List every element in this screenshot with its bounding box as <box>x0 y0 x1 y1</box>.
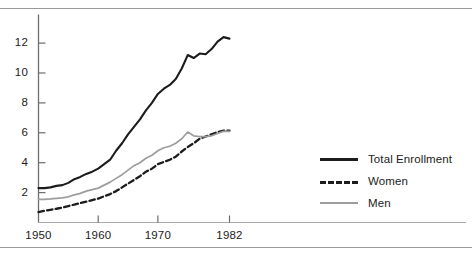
x-tick-label: 1982 <box>207 229 253 241</box>
legend-line-swatch-icon <box>320 202 358 204</box>
y-tick-label: 8 <box>2 96 28 108</box>
series-line-men <box>39 131 230 199</box>
legend-line-swatch-icon <box>320 158 358 161</box>
bottom-divider-rule <box>0 247 472 248</box>
axis-ticks <box>39 43 230 222</box>
legend-item[interactable]: Men <box>320 193 468 215</box>
y-tick-label: 2 <box>2 186 28 198</box>
chart-legend: Total EnrollmentWomenMen <box>320 149 468 215</box>
enrollment-line-chart: 24681012 1950196019701982 Total Enrollme… <box>0 9 472 247</box>
data-series <box>39 37 230 212</box>
x-tick-label: 1950 <box>16 229 62 241</box>
legend-line-swatch-icon <box>320 181 358 184</box>
legend-item-label: Total Enrollment <box>368 149 452 170</box>
legend-item-label: Men <box>368 193 391 214</box>
legend-item[interactable]: Total Enrollment <box>320 149 468 171</box>
y-tick-label: 12 <box>2 36 28 48</box>
legend-item-label: Women <box>368 171 408 192</box>
y-tick-label: 4 <box>2 156 28 168</box>
series-line-women <box>39 131 230 212</box>
y-tick-label: 10 <box>2 66 28 78</box>
x-tick-label: 1960 <box>75 229 121 241</box>
x-tick-label: 1970 <box>135 229 181 241</box>
legend-item[interactable]: Women <box>320 171 468 193</box>
y-tick-label: 6 <box>2 126 28 138</box>
